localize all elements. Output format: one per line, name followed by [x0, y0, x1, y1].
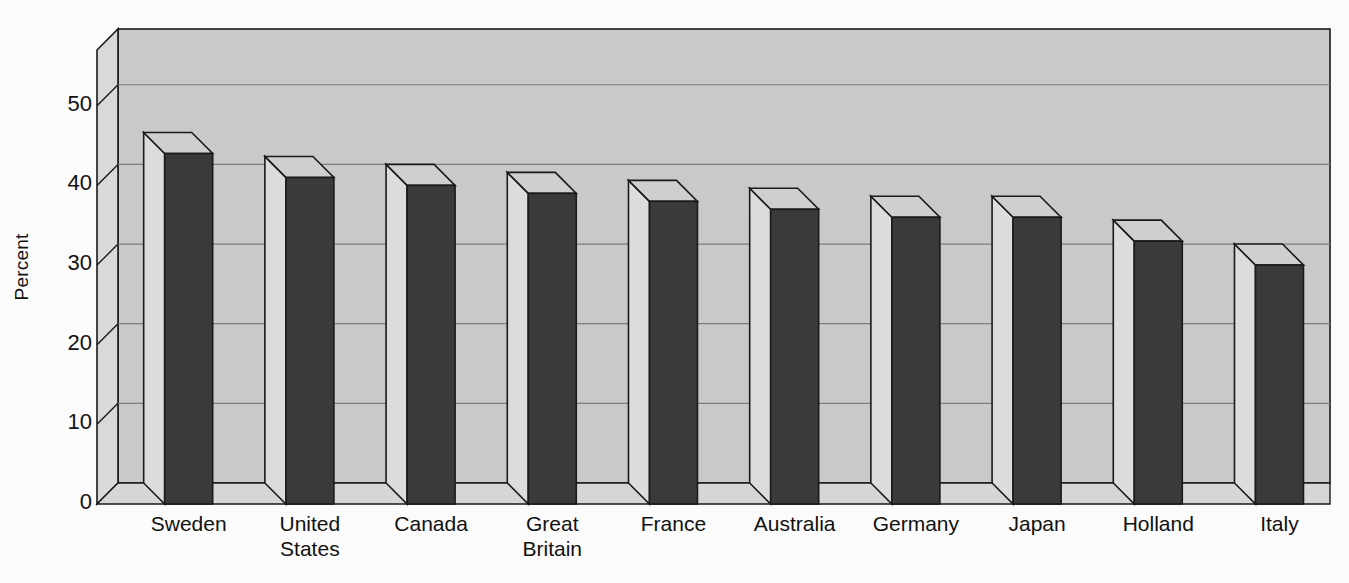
- bar-japan: [992, 196, 1061, 504]
- bar-front-face: [165, 154, 213, 504]
- bar-front-face: [1134, 241, 1182, 504]
- bar-front-face: [771, 209, 819, 504]
- bar-front-face: [1013, 217, 1061, 504]
- bar-front-face: [649, 201, 697, 504]
- bar-front-face: [407, 185, 455, 504]
- bar-side-face: [1234, 244, 1255, 504]
- bar-side-face: [992, 196, 1013, 504]
- bar-side-face: [265, 156, 286, 504]
- bar-side-face: [144, 133, 165, 504]
- bar-holland: [1113, 220, 1182, 504]
- bar-side-face: [386, 164, 407, 504]
- bar-side-face: [750, 188, 771, 504]
- bar-france: [628, 180, 697, 504]
- bar-canada: [386, 164, 455, 504]
- bar-italy: [1234, 244, 1303, 504]
- bar-side-face: [1113, 220, 1134, 504]
- bar-front-face: [1255, 265, 1303, 504]
- bar-side-face: [507, 172, 528, 504]
- bar-side-face: [628, 180, 649, 504]
- bar-front-face: [286, 177, 334, 504]
- bar-united-states: [265, 156, 334, 504]
- bar-chart: 01020304050 Percent SwedenUnited StatesC…: [0, 0, 1349, 583]
- bar-side-face: [871, 196, 892, 504]
- category-label-italy: Italy: [1204, 512, 1349, 537]
- bar-great-britain: [507, 172, 576, 504]
- bar-sweden: [144, 133, 213, 504]
- bar-front-face: [528, 193, 576, 504]
- bar-australia: [750, 188, 819, 504]
- bar-front-face: [892, 217, 940, 504]
- bar-germany: [871, 196, 940, 504]
- plot-area: [0, 0, 1349, 583]
- left-wall: [97, 29, 118, 504]
